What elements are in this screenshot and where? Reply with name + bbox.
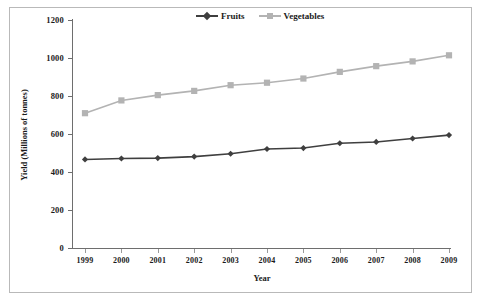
data-point[interactable] xyxy=(118,97,124,103)
data-point[interactable] xyxy=(191,154,197,160)
data-point[interactable] xyxy=(446,52,452,58)
data-point[interactable] xyxy=(373,63,379,69)
series-vegetables xyxy=(82,52,452,116)
data-point[interactable] xyxy=(410,58,416,64)
data-point[interactable] xyxy=(155,155,161,161)
data-point[interactable] xyxy=(410,135,416,141)
data-point[interactable] xyxy=(118,155,124,161)
data-point[interactable] xyxy=(228,151,234,157)
data-point[interactable] xyxy=(228,82,234,88)
data-point[interactable] xyxy=(191,88,197,94)
data-point[interactable] xyxy=(300,145,306,151)
data-point[interactable] xyxy=(264,80,270,86)
data-point[interactable] xyxy=(446,132,452,138)
data-point[interactable] xyxy=(337,140,343,146)
data-point[interactable] xyxy=(82,156,88,162)
data-point[interactable] xyxy=(337,69,343,75)
data-point[interactable] xyxy=(82,110,88,116)
data-point[interactable] xyxy=(155,92,161,98)
series-fruits xyxy=(82,132,452,163)
data-point[interactable] xyxy=(300,75,306,81)
data-point[interactable] xyxy=(264,146,270,152)
line-chart: Yield (Millions of tonnes) Year Fruits V… xyxy=(0,0,482,302)
data-point[interactable] xyxy=(373,139,379,145)
series-layer xyxy=(0,0,482,302)
